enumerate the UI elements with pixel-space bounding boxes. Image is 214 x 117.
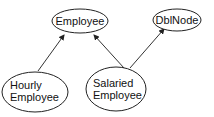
node-dblnode-label: DblNode — [156, 14, 199, 26]
inheritance-diagram: Employee DblNode Hourly Employee Salarie… — [0, 0, 214, 117]
node-hourly-employee-label-line2: Employee — [10, 91, 59, 103]
node-hourly-employee-label-line1: Hourly — [10, 79, 42, 91]
edge-hourly-to-employee — [38, 35, 64, 71]
node-salaried-employee[interactable]: Salaried Employee — [86, 67, 146, 111]
node-employee-label: Employee — [56, 15, 105, 27]
node-salaried-employee-label-line2: Employee — [93, 89, 142, 101]
edge-salaried-to-employee — [94, 35, 124, 68]
edge-salaried-to-dblnode — [130, 29, 164, 68]
node-salaried-employee-label-line1: Salaried — [93, 77, 133, 89]
node-employee[interactable]: Employee — [52, 9, 108, 33]
node-hourly-employee[interactable]: Hourly Employee — [2, 72, 68, 112]
node-dblnode[interactable]: DblNode — [153, 9, 201, 31]
